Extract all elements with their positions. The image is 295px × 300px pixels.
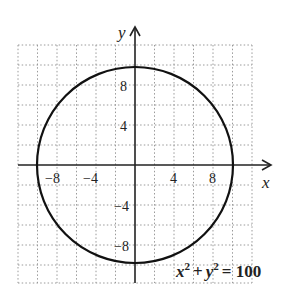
y-tick-label: 4 bbox=[120, 119, 127, 134]
y-tick-label: 8 bbox=[120, 79, 127, 94]
y-axis-label: y bbox=[116, 23, 126, 42]
y-tick-label: −8 bbox=[114, 239, 129, 254]
x-axis-label: x bbox=[261, 173, 270, 192]
x-tick-label: 4 bbox=[170, 171, 177, 186]
equation-label: x2+y2= 100 bbox=[175, 260, 261, 281]
x-tick-label: 8 bbox=[209, 171, 216, 186]
y-tick-label: −4 bbox=[114, 199, 129, 214]
x-tick-label: −4 bbox=[83, 171, 98, 186]
svg-text:x2+y2= 100: x2+y2= 100 bbox=[175, 260, 261, 281]
graph-canvas: y x −8 −4 4 8 8 4 −4 −8 x2+y2= 100 bbox=[0, 0, 295, 300]
x-tick-label: −8 bbox=[45, 171, 60, 186]
